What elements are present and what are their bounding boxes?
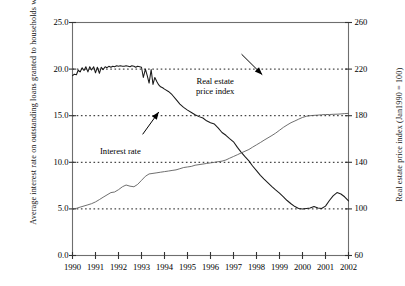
annotation-real-estate-price-index: Real estate price index: [196, 76, 234, 96]
y-axis-right-tick-220: 220: [355, 64, 385, 74]
y-axis-right-tick-260: 260: [355, 17, 385, 27]
y-axis-right-title: Real estate price index (Jan1990 = 100): [395, 35, 404, 235]
y-axis-right-tick-180: 180: [355, 110, 385, 120]
axis-frame: [73, 23, 349, 256]
y-axis-left-tick-0.0: 0.0: [27, 250, 69, 260]
y-axis-left-tick-25.0: 25.0: [27, 17, 69, 27]
annotation-interest-rate-line1: Interest rate: [100, 146, 141, 156]
annotation-real-estate-line1: Real estate: [196, 76, 233, 86]
y-axis-right-tick-140: 140: [355, 157, 385, 167]
y-axis-left-tick-10.0: 10.0: [27, 157, 69, 167]
x-axis-tick-2002: 2002: [336, 262, 362, 272]
y-axis-right-tick-60: 60: [355, 250, 385, 260]
y-axis-left-tick-20.0: 20.0: [27, 64, 69, 74]
y-axis-left-tick-5.0: 5.0: [27, 203, 69, 213]
y-axis-right-tick-100: 100: [355, 203, 385, 213]
axis-ticks: [69, 23, 352, 260]
y-axis-left-tick-15.0: 15.0: [27, 110, 69, 120]
y-axis-left-title: Average interest rate on outstanding loa…: [29, 25, 38, 225]
y-axis-right-title-text: Real estate price index (Jan1990 = 100): [395, 68, 404, 202]
annotation-interest-rate: Interest rate: [100, 146, 141, 156]
annotation-real-estate-line2: price index: [196, 86, 234, 96]
